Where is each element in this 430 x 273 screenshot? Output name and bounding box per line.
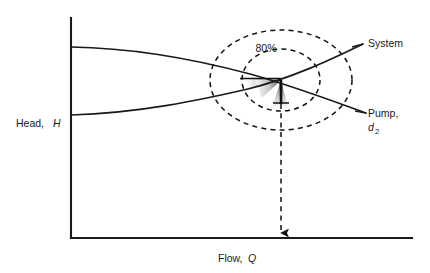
pump-system-curve-diagram: System Pump, d 2 80% Head, H Flow, Q [0, 0, 430, 273]
figure-canvas: System Pump, d 2 80% Head, H Flow, Q [0, 0, 430, 273]
y-axis-label-group: Head, H [16, 117, 61, 129]
y-axis-label-text: Head, [16, 117, 44, 129]
efficiency-label: 80% [255, 42, 276, 54]
pump-diameter-subscript: 2 [375, 127, 379, 136]
system-curve [71, 44, 363, 115]
x-axis-label-symbol: Q [248, 252, 256, 264]
x-axis-label-group: Flow, Q [218, 252, 256, 264]
pump-curve-label-subscript-group: d 2 [368, 121, 379, 136]
x-axis-label-text: Flow, [218, 252, 243, 264]
y-axis-label-symbol: H [53, 117, 61, 129]
pump-label-leader [355, 111, 366, 113]
axes-group [71, 18, 412, 238]
pump-diameter-symbol: d [368, 121, 375, 133]
pump-curve-label: Pump, [368, 107, 398, 119]
system-curve-label: System [368, 37, 403, 49]
